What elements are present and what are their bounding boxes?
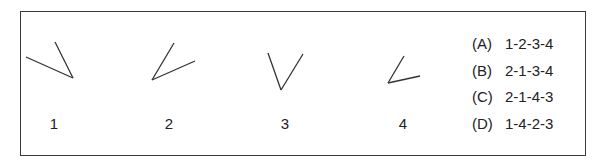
answer-options: (A)1-2-3-4 (B)2-1-3-4 (C)2-1-4-3 (D)1-4-…	[472, 35, 553, 141]
angle-figure-4	[388, 56, 420, 83]
option-sequence: 2-1-4-3	[505, 88, 553, 105]
figure-label-1: 1	[50, 115, 58, 132]
option-b[interactable]: (B)2-1-3-4	[472, 62, 553, 89]
option-sequence: 1-2-3-4	[505, 35, 553, 52]
angle-figure-2	[152, 43, 195, 80]
option-sequence: 2-1-3-4	[505, 62, 553, 79]
option-c[interactable]: (C)2-1-4-3	[472, 88, 553, 115]
option-letter: (A)	[472, 35, 505, 52]
angle-figure-3	[268, 53, 303, 90]
option-letter: (D)	[472, 115, 505, 132]
figure-label-3: 3	[281, 115, 289, 132]
figure-label-2: 2	[165, 115, 173, 132]
angle-1-arm-b	[55, 42, 73, 78]
option-letter: (C)	[472, 88, 505, 105]
angle-figure-1	[26, 42, 73, 78]
angle-1-arm-a	[26, 57, 73, 78]
option-letter: (B)	[472, 62, 505, 79]
figure-label-4: 4	[399, 115, 407, 132]
option-d[interactable]: (D)1-4-2-3	[472, 115, 553, 142]
option-a[interactable]: (A)1-2-3-4	[472, 35, 553, 62]
angle-3-arm-a	[268, 53, 281, 90]
angle-2-arm-b	[152, 61, 195, 80]
option-sequence: 1-4-2-3	[505, 115, 553, 132]
angle-4-arm-a	[388, 56, 404, 83]
angle-4-arm-b	[388, 76, 420, 83]
angle-3-arm-b	[281, 54, 303, 90]
